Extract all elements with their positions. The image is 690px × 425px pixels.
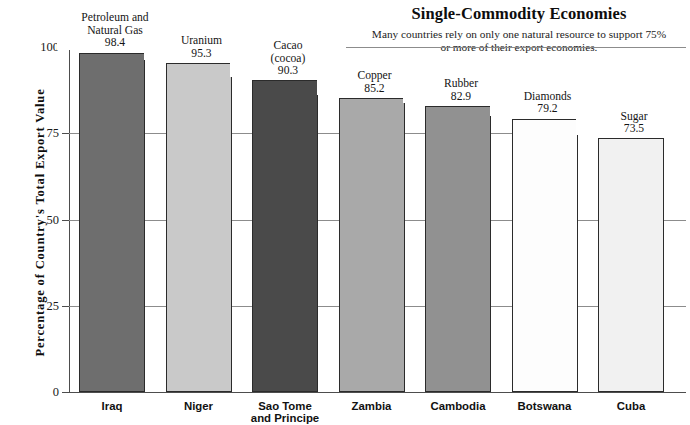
y-axis-title: Percentage of Country's Total Export Val… (33, 33, 48, 413)
bar-cambodia[interactable] (425, 106, 491, 392)
y-tick-mark (62, 392, 69, 393)
chart-header: Single-Commodity Economies Many countrie… (352, 4, 686, 53)
plot-area: 0255075100 Petroleum and Natural Gas 98.… (69, 47, 686, 392)
bar-niger[interactable] (166, 63, 232, 392)
chart-title: Single-Commodity Economies (352, 4, 686, 24)
bar-cuba[interactable] (598, 138, 664, 392)
y-tick-label: 75 (47, 126, 60, 141)
y-tick-mark (62, 133, 69, 134)
bar-iraq[interactable] (79, 53, 145, 392)
bar-value-label: Sugar 73.5 (576, 111, 690, 136)
bar-sao-tome-and-principe[interactable] (252, 80, 318, 392)
x-axis-line (69, 392, 686, 393)
x-axis-label: Cuba (576, 400, 686, 412)
y-tick-label: 25 (47, 298, 60, 313)
y-tick-mark (62, 306, 69, 307)
y-tick-label: 50 (47, 212, 60, 227)
y-tick-label: 0 (53, 385, 59, 400)
bar-zambia[interactable] (339, 98, 405, 392)
y-tick-mark (62, 220, 69, 221)
bar-botswana[interactable] (512, 119, 578, 392)
